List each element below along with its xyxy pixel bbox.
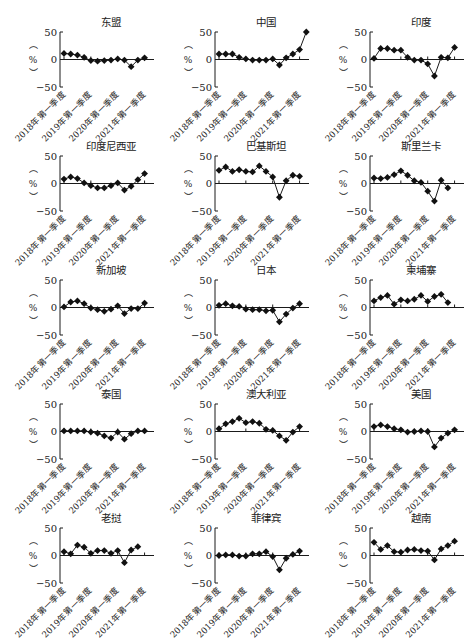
diamond-marker: [67, 299, 74, 306]
chart-panel: 巴基斯坦︵%︶500−502018年第一季度2019年第一季度2020年第一季度…: [155, 138, 313, 262]
diamond-marker: [371, 55, 378, 62]
diamond-marker: [411, 428, 418, 435]
chart-title: 巴基斯坦: [246, 140, 287, 152]
diamond-marker: [384, 174, 391, 181]
diamond-marker: [229, 302, 236, 309]
diamond-marker: [296, 46, 303, 53]
diamond-marker: [242, 419, 249, 426]
svg-text:︵: ︵: [184, 536, 193, 546]
diamond-marker: [451, 44, 458, 51]
diamond-marker: [418, 547, 425, 554]
data-series: [61, 50, 148, 70]
svg-text:%: %: [339, 551, 348, 561]
y-axis: 500−50: [36, 27, 63, 93]
svg-text:%: %: [184, 303, 193, 313]
diamond-marker: [431, 198, 438, 205]
y-tick-label: 0: [51, 550, 57, 561]
data-series: [216, 29, 310, 69]
svg-text:%: %: [29, 427, 38, 437]
diamond-marker: [108, 57, 115, 64]
chart-title: 日本: [256, 264, 277, 276]
chart-title: 泰国: [101, 388, 121, 400]
diamond-marker: [424, 428, 431, 435]
line-chart: 斯里兰卡︵%︶500−502018年第一季度2019年第一季度2020年第一季度…: [310, 138, 468, 262]
y-tick-label: 0: [206, 54, 212, 65]
diamond-marker: [67, 174, 74, 181]
data-series: [371, 44, 458, 79]
svg-text:︶: ︶: [184, 68, 193, 78]
diamond-marker: [67, 51, 74, 58]
diamond-marker: [263, 57, 270, 64]
y-tick-label: 0: [51, 302, 57, 313]
svg-text:︶: ︶: [29, 192, 38, 202]
chart-title: 越南: [411, 512, 431, 524]
diamond-marker: [222, 164, 229, 171]
svg-text:%: %: [339, 303, 348, 313]
y-axis-unit-label: ︵%︶: [29, 288, 38, 326]
y-tick-label: −50: [191, 206, 212, 217]
y-tick-label: −50: [36, 206, 57, 217]
diamond-marker: [249, 418, 256, 425]
chart-panel: 越南︵%︶500−502018年第一季度2019年第一季度2020年第一季度20…: [310, 510, 468, 634]
diamond-marker: [411, 57, 418, 64]
data-series: [371, 291, 452, 308]
svg-text:%: %: [29, 303, 38, 313]
y-axis: 500−50: [191, 151, 218, 217]
y-tick-label: 0: [51, 54, 57, 65]
diamond-marker: [242, 56, 249, 63]
chart-panel: 东盟︵%︶500−502018年第一季度2019年第一季度2020年第一季度20…: [0, 14, 158, 138]
y-tick-label: 50: [44, 275, 57, 286]
y-tick-label: 0: [206, 550, 212, 561]
diamond-marker: [94, 185, 101, 192]
data-series: [371, 422, 458, 451]
diamond-marker: [249, 550, 256, 557]
svg-text:︶: ︶: [29, 564, 38, 574]
svg-text:%: %: [184, 427, 193, 437]
svg-text:%: %: [339, 55, 348, 65]
y-axis: 500−50: [346, 523, 373, 589]
diamond-marker: [87, 305, 94, 312]
line-chart: 美国︵%︶500−502018年第一季度2019年第一季度2020年第一季度20…: [310, 386, 468, 510]
diamond-marker: [216, 552, 223, 559]
diamond-marker: [121, 559, 128, 566]
svg-text:%: %: [339, 427, 348, 437]
diamond-marker: [94, 430, 101, 437]
y-axis-unit-label: ︵%︶: [29, 164, 38, 202]
chart-title: 美国: [411, 388, 431, 400]
y-tick-label: 50: [199, 151, 212, 162]
chart-panel: 美国︵%︶500−502018年第一季度2019年第一季度2020年第一季度20…: [310, 386, 468, 510]
chart-title: 菲律宾: [251, 512, 281, 524]
diamond-marker: [377, 175, 384, 182]
diamond-marker: [269, 553, 276, 560]
y-axis: 500−50: [346, 27, 373, 93]
y-tick-label: −50: [346, 330, 367, 341]
line-chart: 日本︵%︶500−502018年第一季度2019年第一季度2020年第一季度20…: [155, 262, 313, 386]
diamond-marker: [397, 426, 404, 433]
diamond-marker: [81, 180, 88, 187]
diamond-marker: [256, 57, 263, 64]
diamond-marker: [222, 300, 229, 307]
line-chart: 巴基斯坦︵%︶500−502018年第一季度2019年第一季度2020年第一季度…: [155, 138, 313, 262]
diamond-marker: [74, 428, 81, 435]
y-tick-label: 50: [199, 27, 212, 38]
y-tick-label: 50: [44, 151, 57, 162]
diamond-marker: [229, 552, 236, 559]
diamond-marker: [424, 61, 431, 68]
y-tick-label: 0: [51, 178, 57, 189]
diamond-marker: [431, 293, 438, 300]
diamond-marker: [444, 54, 451, 61]
svg-text:%: %: [29, 551, 38, 561]
y-tick-label: −50: [36, 578, 57, 589]
svg-text:︶: ︶: [184, 564, 193, 574]
line-chart: 菲律宾︵%︶500−502018年第一季度2019年第一季度2020年第一季度2…: [155, 510, 313, 634]
svg-text:︵: ︵: [339, 164, 348, 174]
diamond-marker: [444, 542, 451, 549]
y-axis: 500−50: [346, 399, 373, 465]
svg-text:︵: ︵: [29, 40, 38, 50]
diamond-marker: [397, 296, 404, 303]
svg-text:%: %: [184, 179, 193, 189]
y-axis-unit-label: ︵%︶: [339, 288, 348, 326]
chart-title: 柬埔寨: [406, 264, 437, 276]
line-chart: 泰国︵%︶500−502018年第一季度2019年第一季度2020年第一季度20…: [0, 386, 158, 510]
y-tick-label: 50: [199, 523, 212, 534]
